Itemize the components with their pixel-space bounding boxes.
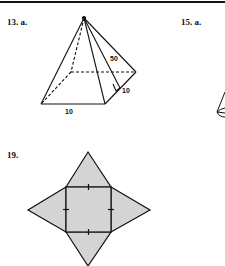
net-top-triangle (66, 152, 111, 187)
net-square-base (66, 187, 111, 232)
net-right-triangle (111, 187, 150, 232)
net-bottom-triangle (66, 232, 111, 266)
pyramid-net-figure (28, 152, 150, 266)
cone-figure (217, 92, 225, 117)
figures-canvas: 50 10 10 (0, 0, 225, 266)
net-left-triangle (28, 187, 66, 232)
base-side-right-label: 10 (122, 87, 130, 94)
slant-height-label: 50 (110, 55, 118, 62)
base-side-front-label: 10 (65, 108, 73, 115)
